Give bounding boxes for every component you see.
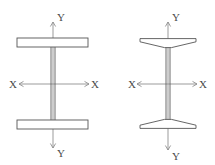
left-y-axis-top-label: Y (57, 11, 65, 23)
left-x-axis-right-label: X (91, 78, 99, 90)
right-y-axis-top-label: Y (172, 11, 180, 23)
left-top-flange (17, 38, 88, 47)
right-x-axis-left-label: X (128, 78, 136, 90)
wide-flange-section: Y Y X X (9, 11, 99, 159)
left-x-axis-left-label: X (9, 78, 17, 90)
left-y-axis-bottom-label: Y (57, 147, 65, 159)
figure-canvas: Y Y X X Y (0, 0, 215, 165)
american-standard-section: Y Y X X (128, 11, 207, 162)
right-bottom-flange (140, 119, 196, 128)
right-x-axis-right-label: X (199, 78, 207, 90)
right-top-flange (140, 39, 196, 48)
right-y-axis-bottom-label: Y (172, 150, 180, 162)
section-diagram: Y Y X X Y (0, 0, 215, 165)
left-bottom-flange (17, 120, 88, 129)
